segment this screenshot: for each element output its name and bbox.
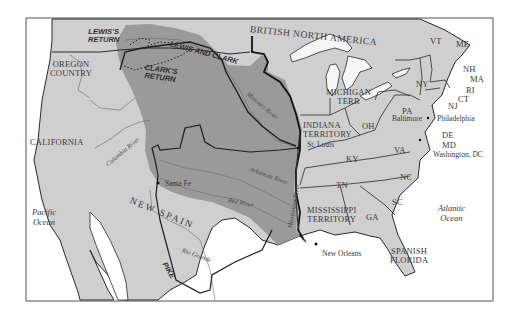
label-ga: GA	[366, 213, 379, 222]
label-ky: KY	[346, 155, 359, 164]
label-vt: VT	[430, 37, 442, 46]
label-oh: OH	[362, 122, 375, 131]
label-sc: SC	[392, 198, 403, 207]
label-michigan-terr: MICHIGAN TERR	[326, 88, 371, 105]
label-ma: MA	[470, 75, 484, 84]
label-philadelphia: Philadelphia	[437, 115, 475, 123]
label-spanish-florida: SPANISH FLORIDA	[390, 247, 428, 264]
label-va: VA	[394, 146, 406, 155]
label-de: DE	[442, 131, 454, 140]
label-tn: TN	[336, 181, 348, 190]
label-ny: NY	[416, 80, 429, 89]
label-baltimore: Baltimore	[392, 115, 422, 123]
washington-marker	[419, 139, 421, 141]
label-atlantic-ocean: Atlantic Ocean	[438, 204, 465, 224]
label-new-orleans: New Orleans	[322, 250, 361, 258]
label-nh: NH	[463, 65, 476, 74]
label-nj: NJ	[448, 102, 458, 111]
label-nc: NC	[400, 173, 412, 182]
santa-fe-marker	[157, 182, 160, 185]
label-ct: CT	[458, 95, 469, 104]
st-louis-marker	[297, 147, 300, 150]
label-md: MD	[442, 141, 456, 150]
label-oregon-country: OREGON COUNTRY	[50, 60, 92, 77]
new-orleans-marker	[315, 243, 318, 246]
label-me: ME	[456, 40, 469, 49]
philadelphia-marker	[427, 117, 429, 119]
label-washington-dc: Washington, DC	[433, 151, 483, 159]
label-mississippi-territory: MISSISSIPPI TERRITORY	[307, 206, 356, 223]
label-california: CALIFORNIA	[30, 138, 83, 147]
label-indiana-territory: INDIANA TERRITORY	[303, 121, 352, 138]
label-lewis-return: LEWIS'S RETURN	[88, 28, 119, 44]
label-pacific-ocean: Pacific Ocean	[32, 208, 56, 228]
label-santa-fe: Santa Fe	[165, 180, 191, 188]
label-st-louis: St. Louis	[307, 141, 334, 149]
